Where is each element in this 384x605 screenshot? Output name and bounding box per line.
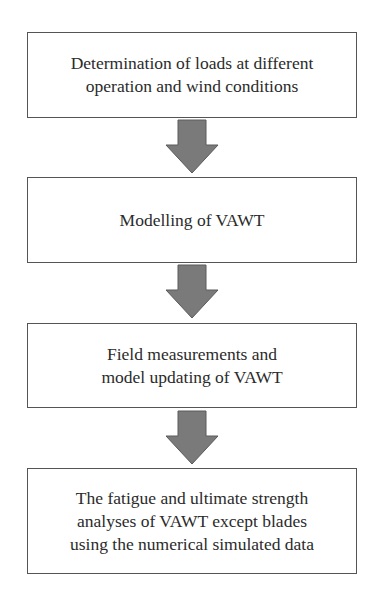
down-arrow-icon [165, 119, 219, 174]
step-2-box: Modelling of VAWT [27, 177, 357, 263]
step-3-box: Field measurements and model updating of… [27, 323, 357, 408]
step-4-line-3: using the numerical simulated data [70, 533, 314, 556]
step-1-box: Determination of loads at different oper… [27, 32, 357, 118]
step-4-box: The fatigue and ultimate strength analys… [27, 468, 357, 574]
step-1-line-2: operation and wind conditions [86, 75, 298, 98]
step-2-line-1: Modelling of VAWT [120, 209, 265, 232]
step-4-line-2: analyses of VAWT except blades [77, 510, 307, 533]
down-arrow-icon [165, 410, 219, 465]
step-3-line-1: Field measurements and [107, 343, 277, 366]
step-4-line-1: The fatigue and ultimate strength [76, 487, 308, 510]
step-3-line-2: model updating of VAWT [101, 366, 282, 389]
step-1-line-1: Determination of loads at different [71, 52, 314, 75]
down-arrow-icon [165, 264, 219, 319]
